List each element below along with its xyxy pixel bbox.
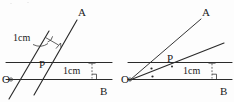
left-label-1cm-horizontal: 1cm: [63, 66, 80, 76]
right-point-p-marker: [171, 66, 173, 68]
left-horizontal-gap-marker: [89, 63, 97, 79]
right-angle-dot-upper: [150, 67, 152, 69]
right-horizontal-gap-marker: [209, 63, 217, 79]
figure-canvas: .ln{stroke:#2a2a2a;stroke-width:1.15;fil…: [0, 0, 234, 102]
right-right-angle-square-horizontal: [212, 74, 217, 79]
left-right-angle-square-horizontal: [92, 74, 97, 79]
left-label-a: A: [78, 7, 86, 18]
geometry-drawing: .ln{stroke:#2a2a2a;stroke-width:1.15;fil…: [0, 0, 234, 102]
right-equal-angle-marks: [150, 67, 153, 77]
right-label-p: P: [167, 53, 173, 64]
right-label-a: A: [202, 7, 210, 18]
right-angle-dot-lower: [151, 75, 153, 77]
right-label-o: O: [121, 74, 129, 85]
right-label-1cm-horizontal: 1cm: [183, 66, 200, 76]
left-label-b: B: [100, 86, 107, 97]
scan-noise-speck: [10, 3, 12, 4]
right-ray-through-p: [130, 43, 224, 80]
scan-noise-speck: [27, 2, 29, 3]
right-rays-from-origin: [130, 19, 224, 80]
left-perpendicular-distance-marker: [46, 36, 62, 48]
left-label-1cm-slant: 1cm: [13, 33, 30, 43]
left-label-o: O: [2, 74, 10, 85]
right-label-b: B: [220, 86, 227, 97]
left-label-p: P: [39, 59, 45, 70]
